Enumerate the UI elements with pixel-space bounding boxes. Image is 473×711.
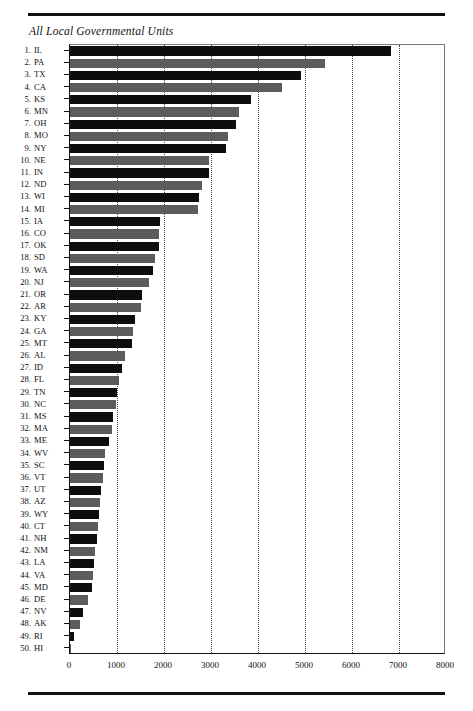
bar-la — [70, 559, 94, 568]
axis-label-nd: 12.ND — [0, 178, 69, 190]
state-abbreviation: OR — [34, 288, 56, 300]
bar-row — [70, 326, 446, 338]
state-abbreviation: FL — [34, 373, 56, 385]
bar-row — [70, 106, 446, 118]
state-abbreviation: NC — [34, 398, 56, 410]
bar-row — [70, 643, 446, 655]
state-abbreviation: CT — [34, 520, 56, 532]
axis-label-wy: 39.WY — [0, 508, 69, 520]
bar-row — [70, 570, 446, 582]
axis-label-ga: 24.GA — [0, 325, 69, 337]
bar-row — [70, 265, 446, 277]
state-abbreviation: NV — [34, 605, 56, 617]
axis-label-fl: 28.FL — [0, 373, 69, 385]
axis-label-id: 27.ID — [0, 361, 69, 373]
state-abbreviation: ND — [34, 178, 56, 190]
bar-ms — [70, 412, 113, 421]
bar-co — [70, 229, 159, 238]
bar-ok — [70, 242, 159, 251]
rank-number: 46. — [20, 593, 31, 605]
rank-number: 9. — [25, 142, 31, 154]
rank-number: 1. — [25, 44, 31, 56]
bar-row — [70, 460, 446, 472]
bar-row — [70, 216, 446, 228]
axis-label-ri: 49.RI — [0, 630, 69, 642]
rank-number: 21. — [20, 288, 31, 300]
rank-number: 20. — [20, 276, 31, 288]
axis-label-ar: 22.AR — [0, 300, 69, 312]
bar-wi — [70, 193, 199, 202]
axis-label-de: 46.DE — [0, 593, 69, 605]
bar-row — [70, 631, 446, 643]
rank-number: 13. — [20, 190, 31, 202]
state-abbreviation: NH — [34, 532, 56, 544]
plot-area: 1.IL2.PA3.TX4.CA5.KS6.MN7.OH8.MO9.NY10.N… — [0, 44, 473, 669]
bar-row — [70, 289, 446, 301]
x-axis: 010002000300040005000600070008000 — [0, 656, 473, 676]
bar-fl — [70, 376, 119, 385]
axis-label-me: 33.ME — [0, 434, 69, 446]
bar-row — [70, 191, 446, 203]
category-axis-labels: 1.IL2.PA3.TX4.CA5.KS6.MN7.OH8.MO9.NY10.N… — [0, 44, 69, 654]
axis-label-ne: 10.NE — [0, 154, 69, 166]
axis-label-ks: 5.KS — [0, 93, 69, 105]
state-abbreviation: MN — [34, 105, 56, 117]
rank-number: 34. — [20, 447, 31, 459]
state-abbreviation: VT — [34, 471, 56, 483]
bar-row — [70, 118, 446, 130]
bar-row — [70, 533, 446, 545]
bar-row — [70, 509, 446, 521]
axis-label-ia: 15.IA — [0, 215, 69, 227]
bar-row — [70, 496, 446, 508]
state-abbreviation: AZ — [34, 495, 56, 507]
rank-number: 24. — [20, 325, 31, 337]
x-tick-label-7000: 7000 — [389, 660, 407, 670]
axis-label-ct: 40.CT — [0, 520, 69, 532]
state-abbreviation: CO — [34, 227, 56, 239]
axis-label-nc: 30.NC — [0, 398, 69, 410]
bar-row — [70, 130, 446, 142]
bar-ut — [70, 486, 101, 495]
axis-label-in: 11.IN — [0, 166, 69, 178]
bar-me — [70, 437, 109, 446]
bar-ga — [70, 327, 133, 336]
bar-sd — [70, 254, 155, 263]
bar-ny — [70, 144, 226, 153]
state-abbreviation: WI — [34, 190, 56, 202]
state-abbreviation: MO — [34, 129, 56, 141]
axis-label-nv: 47.NV — [0, 605, 69, 617]
bar-ia — [70, 217, 160, 226]
bar-wa — [70, 266, 153, 275]
rank-number: 4. — [25, 81, 31, 93]
axis-label-ut: 37.UT — [0, 483, 69, 495]
bar-ar — [70, 303, 141, 312]
bar-row — [70, 82, 446, 94]
state-abbreviation: UT — [34, 483, 56, 495]
state-abbreviation: SD — [34, 251, 56, 263]
bar-row — [70, 252, 446, 264]
state-abbreviation: MI — [34, 203, 56, 215]
rank-number: 7. — [25, 117, 31, 129]
axis-label-mn: 6.MN — [0, 105, 69, 117]
state-abbreviation: MS — [34, 410, 56, 422]
bar-sc — [70, 461, 104, 470]
state-abbreviation: DE — [34, 593, 56, 605]
bar-va — [70, 571, 93, 580]
bar-hi — [70, 644, 71, 653]
axis-label-ky: 23.KY — [0, 312, 69, 324]
rank-number: 5. — [25, 93, 31, 105]
axis-label-nm: 42.NM — [0, 544, 69, 556]
bar-pa — [70, 59, 325, 68]
bar-az — [70, 498, 100, 507]
bar-ky — [70, 315, 135, 324]
rank-number: 25. — [20, 337, 31, 349]
state-abbreviation: WA — [34, 264, 56, 276]
bar-in — [70, 168, 209, 177]
state-abbreviation: NY — [34, 142, 56, 154]
state-abbreviation: OH — [34, 117, 56, 129]
axis-label-tn: 29.TN — [0, 386, 69, 398]
bar-row — [70, 350, 446, 362]
state-abbreviation: KS — [34, 93, 56, 105]
bar-ca — [70, 83, 282, 92]
state-abbreviation: MT — [34, 337, 56, 349]
